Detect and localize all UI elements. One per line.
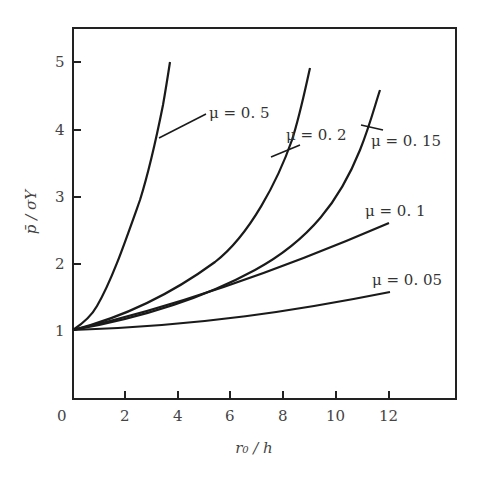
x-axis-label: r₀ / h bbox=[235, 439, 272, 457]
curves bbox=[73, 62, 390, 330]
y-ticks bbox=[73, 62, 81, 264]
y-axis-label: p̄ / σY bbox=[22, 188, 40, 234]
chart-canvas: 5 4 3 2 1 0 2 4 6 8 10 12 r₀ / h p̄ / σY… bbox=[0, 0, 477, 485]
x-tick-label-4: 4 bbox=[173, 407, 183, 425]
curve-mu-0-2 bbox=[73, 68, 310, 330]
x-tick-label-6: 6 bbox=[225, 407, 235, 425]
leader-mu-0-5 bbox=[159, 114, 206, 138]
x-ticks bbox=[125, 391, 389, 399]
curve-mu-0-05 bbox=[73, 292, 390, 330]
leader-mu-0-15 bbox=[361, 125, 383, 130]
y-tick-label-2: 2 bbox=[55, 255, 65, 273]
x-tick-label-10: 10 bbox=[326, 407, 345, 425]
y-tick-label-4: 4 bbox=[55, 121, 65, 139]
annotation-mu-0-05: μ = 0. 05 bbox=[372, 271, 442, 289]
annotation-mu-0-1: μ = 0. 1 bbox=[365, 202, 425, 220]
x-tick-label-12: 12 bbox=[379, 407, 398, 425]
annotation-mu-0-5: μ = 0. 5 bbox=[209, 104, 269, 122]
y-tick-label-5: 5 bbox=[55, 53, 65, 71]
x-tick-label-2: 2 bbox=[120, 407, 130, 425]
x-tick-label-0: 0 bbox=[57, 407, 67, 425]
curve-mu-0-5 bbox=[73, 62, 170, 330]
x-tick-label-8: 8 bbox=[278, 407, 288, 425]
y-tick-label-1: 1 bbox=[55, 322, 65, 340]
leader-lines bbox=[159, 114, 383, 157]
y-tick-label-3: 3 bbox=[55, 188, 65, 206]
annotation-mu-0-15: μ = 0. 15 bbox=[371, 132, 441, 150]
annotation-mu-0-2: μ = 0. 2 bbox=[286, 126, 346, 144]
